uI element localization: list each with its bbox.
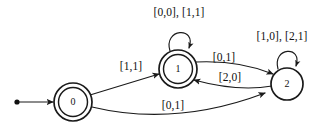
state-node-1[interactable]: 1 — [159, 50, 197, 88]
self-loop-state-1 — [169, 33, 190, 51]
state-node-0[interactable]: 0 — [54, 83, 92, 121]
state-0-label: 0 — [71, 96, 76, 107]
start-marker — [14, 99, 53, 104]
edge-label-1-1: [0,0], [1,1] — [153, 6, 204, 19]
fsa-diagram: 0 1 2 [1,1] [0,1] [0,0], [1,1] [0,1] [2,… — [0, 0, 326, 131]
state-1-label: 1 — [176, 63, 181, 74]
edge-label-0-2: [0,1] — [162, 99, 185, 112]
state-2-label: 2 — [285, 78, 290, 89]
edge-label-2-1: [2,0] — [219, 71, 242, 84]
edge-1-1 — [169, 33, 190, 51]
edge-label-0-1: [1,1] — [120, 60, 143, 73]
self-loop-state-2 — [277, 51, 297, 69]
edge-label-1-2: [0,1] — [213, 51, 236, 64]
edge-label-2-2: [1,0], [2,1] — [256, 30, 307, 43]
edge-2-2 — [277, 51, 297, 69]
transition-0-to-1 — [90, 74, 159, 95]
state-diagram-canvas: 0 1 2 [1,1] [0,1] [0,0], [1,1] [0,1] [2,… — [0, 0, 326, 131]
edge-0-1 — [90, 74, 159, 95]
state-node-2[interactable]: 2 — [271, 68, 303, 100]
